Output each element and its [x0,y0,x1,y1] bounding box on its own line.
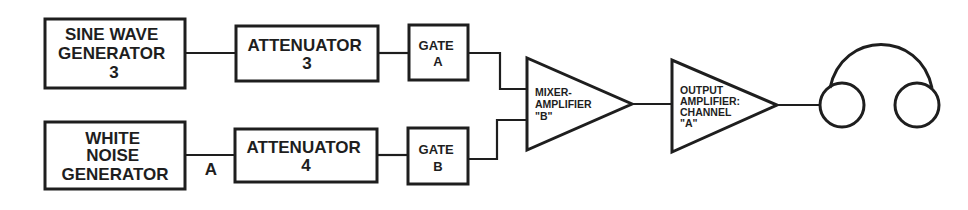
white-noise-generator-label: WHITE NOISE GENERATOR [61,129,168,184]
signal-flow-diagram: SINE WAVE GENERATOR 3 ATTENUATOR 3 GATE … [0,0,968,210]
output-amplifier-label: OUTPUT AMPLIFIER: CHANNEL "A" [680,84,743,129]
sine-wave-generator-label: SINE WAVE GENERATOR 3 [58,25,170,82]
gate-b-label: GATE B [419,142,458,174]
attenuator-4-label: ATTENUATOR 4 [246,138,365,175]
headphones-icon [820,45,939,128]
edge-gateb-to-mixer [468,120,527,159]
attenuator-3-label: ATTENUATOR 3 [247,36,366,73]
edge-label-a: A [205,160,217,179]
gate-a-label: GATE A [419,38,458,69]
edge-gatea-to-mixer [468,53,527,89]
mixer-amplifier-label: MIXER- AMPLIFIER "B" [535,86,595,122]
